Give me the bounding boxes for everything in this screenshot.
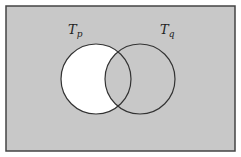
venn-diagram: Tp Tq xyxy=(0,0,241,157)
